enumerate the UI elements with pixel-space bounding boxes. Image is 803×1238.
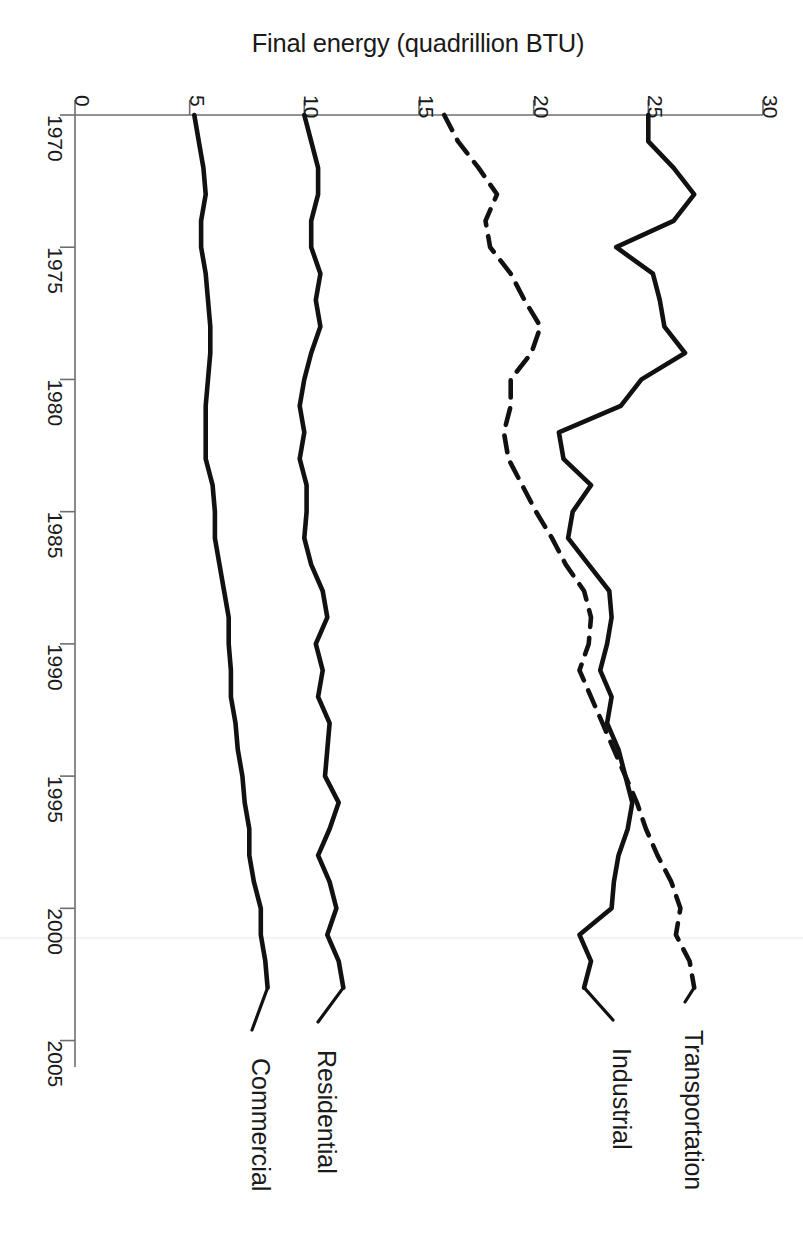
series-label-commercial: Commercial <box>247 1058 275 1191</box>
year-axis-tick-label: 1985 <box>44 512 67 559</box>
leader-lines <box>252 988 694 1030</box>
series-line-industrial <box>559 115 694 988</box>
line-chart-svg: 051015202530 197019751980198519901995200… <box>0 0 803 1238</box>
value-axis: 051015202530 <box>71 95 782 118</box>
chart-figure: 051015202530 197019751980198519901995200… <box>0 0 803 1238</box>
year-axis-tick-label: 2005 <box>44 1041 67 1088</box>
series-label-transportation: Transportation <box>680 1030 708 1190</box>
value-axis-tick-label: 0 <box>71 95 94 107</box>
series-group <box>194 115 694 988</box>
year-axis-tick-label: 1995 <box>44 776 67 823</box>
series-line-transportation <box>444 115 694 988</box>
leader-line-industrial <box>584 988 613 1020</box>
year-axis-tick-label: 2000 <box>44 908 67 955</box>
leader-line-commercial <box>252 988 268 1030</box>
series-line-commercial <box>194 115 267 988</box>
series-label-residential: Residential <box>313 1050 341 1174</box>
value-axis-tick-label: 20 <box>530 95 553 118</box>
value-axis-tick-label: 5 <box>186 95 209 107</box>
year-axis: 19701975198019851990199520002005 <box>44 115 75 1087</box>
series-line-residential <box>300 115 344 988</box>
value-axis-tick-label: 15 <box>415 95 438 118</box>
year-axis-tick-label: 1970 <box>44 115 67 162</box>
chart-title: Final energy (quadrillion BTU) <box>252 29 585 57</box>
series-labels: CommercialResidentialIndustrialTransport… <box>247 1030 708 1191</box>
series-label-industrial: Industrial <box>608 1048 636 1149</box>
year-axis-tick-label: 1980 <box>44 379 67 426</box>
year-axis-tick-label: 1990 <box>44 644 67 691</box>
leader-line-transportation <box>685 988 694 1002</box>
leader-line-residential <box>318 988 343 1022</box>
year-axis-tick-label: 1975 <box>44 247 67 294</box>
value-axis-tick-label: 30 <box>759 95 782 118</box>
